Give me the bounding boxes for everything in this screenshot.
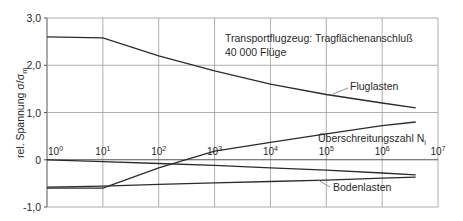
x-tick-label: 104 <box>263 145 278 157</box>
x-tick-label: 101 <box>95 145 110 157</box>
y-tick-label: -1,0 <box>23 201 41 213</box>
chart-subtitle: 40 000 Flüge <box>225 46 286 58</box>
fluglasten-label: Fluglasten <box>350 80 399 92</box>
y-axis-label-sub: m <box>20 68 29 74</box>
x-axis-label-sub: i <box>424 138 426 147</box>
x-tick-label: 105 <box>319 145 334 157</box>
chart-title-block: Transportflugzeug: Tragflächenanschluß 4… <box>225 32 413 58</box>
chart-title: Transportflugzeug: Tragflächenanschluß <box>225 32 413 44</box>
bodenlasten-label: Bodenlasten <box>333 181 392 193</box>
y-tick-label: 1,0 <box>26 107 41 119</box>
series-line-2 <box>47 160 416 175</box>
y-axis-label-main: rel. Spannung σ/σ <box>14 73 26 158</box>
fluglasten-leader-line <box>333 88 348 94</box>
x-axis-label-main: Überschreitungszahl N <box>318 132 424 144</box>
chart-svg: 3,02,01,00-1,0 100101102103104105106107 … <box>0 0 463 221</box>
bodenlasten-leader-line <box>318 180 330 187</box>
x-tick-label: 106 <box>375 145 390 157</box>
x-axis-label: Überschreitungszahl Ni <box>318 132 426 147</box>
y-tick-label: 3,0 <box>26 12 41 24</box>
x-tick-label: 100 <box>48 145 63 157</box>
x-tick-label: 107 <box>430 145 445 157</box>
svg-text:Überschreitungszahl Ni: Überschreitungszahl Ni <box>318 132 426 147</box>
y-tick-label: 0 <box>35 154 41 166</box>
stress-exceedance-chart: 3,02,01,00-1,0 100101102103104105106107 … <box>0 0 463 221</box>
x-tick-label: 103 <box>207 145 222 157</box>
x-tick-label: 102 <box>151 145 166 157</box>
